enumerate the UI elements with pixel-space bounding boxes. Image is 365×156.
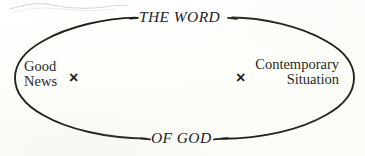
node-label-good-news-line-1: Good [24,59,57,74]
arc-tick-top-left [130,18,138,19]
arc-label-bottom: OF GOD [151,130,212,146]
arc-tick-top-right [228,18,237,19]
arc-label-top: THE WORD [139,9,220,25]
node-label-contemporary-situation-line-1: Contemporary [250,57,339,72]
node-label-contemporary-situation-line-2: Situation [250,72,339,87]
node-label-contemporary-situation: Contemporary Situation [250,57,339,87]
node-label-good-news: Good News [24,59,57,89]
arc-tick-bottom-left [141,138,150,139]
cross-marker-right-icon: × [236,70,245,86]
arc-tick-bottom-right [214,138,228,139]
diagram-canvas: THE WORD OF GOD Good News × × Contempora… [0,0,365,156]
node-label-good-news-line-2: News [24,74,57,89]
cross-marker-left-icon: × [69,70,78,86]
